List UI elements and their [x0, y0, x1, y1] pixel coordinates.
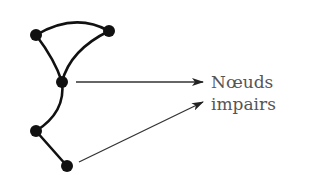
edge-a-b	[36, 22, 109, 35]
node-e-odd	[61, 160, 73, 172]
odd-nodes-label-line-1: Nœuds	[211, 72, 273, 92]
node-c-odd	[56, 76, 68, 88]
edge-c-d	[36, 82, 62, 131]
node-d	[30, 125, 42, 137]
pointer-arrows	[76, 82, 203, 162]
node-a	[30, 29, 42, 41]
edge-a-c	[36, 35, 62, 82]
edge-d-e	[36, 131, 67, 166]
graph-edges	[36, 22, 109, 166]
odd-nodes-label-line-2: impairs	[211, 94, 276, 114]
graph-nodes	[30, 25, 115, 172]
edge-b-c	[62, 31, 109, 82]
arrow-to-label-2	[79, 102, 203, 162]
node-b	[103, 25, 115, 37]
